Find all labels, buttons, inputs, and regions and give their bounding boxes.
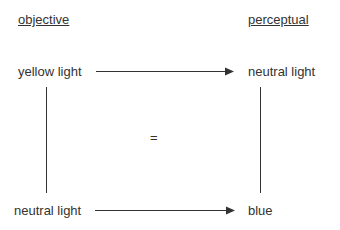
arrowhead-top-icon [225, 68, 234, 76]
diagram-connectors [0, 0, 340, 230]
arrowhead-bottom-icon [226, 207, 235, 215]
